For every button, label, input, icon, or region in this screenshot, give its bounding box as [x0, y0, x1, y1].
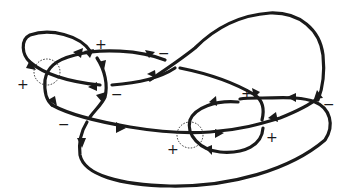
crossing-sign: + [266, 129, 278, 145]
crossing-sign: − [158, 45, 170, 61]
crossing-sign: − [58, 116, 70, 132]
crossing-sign: − [111, 86, 123, 102]
crossing-sign: + [241, 85, 253, 101]
arrow-icon [147, 70, 156, 78]
crossing-sign: + [167, 141, 179, 157]
crossing-sign: + [17, 76, 29, 92]
arrow-icon [116, 122, 126, 133]
arrow-icon [287, 93, 296, 102]
crossing-sign: + [95, 36, 107, 52]
crossing-sign: − [323, 96, 335, 112]
knot-diagram: + − + − − + − + + [0, 0, 355, 194]
